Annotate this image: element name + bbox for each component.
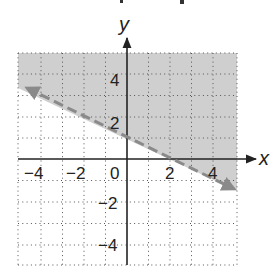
x-tick-label: 0 [110, 164, 119, 183]
x-tick-label: 2 [165, 164, 174, 183]
x-axis-label: x [258, 147, 270, 169]
y-axis-label: y [117, 13, 130, 35]
x-tick-label: −2 [66, 164, 85, 183]
x-tick-label: −4 [24, 164, 43, 183]
y-tick-label: 4 [110, 71, 119, 90]
y-tick-label: −2 [98, 194, 117, 213]
coordinate-plane: y x −4 −2 0 2 4 4 2 −2 −4 [0, 0, 279, 277]
y-tick-label: 2 [110, 114, 119, 133]
y-tick-label: −4 [98, 236, 117, 255]
cropped-text-fragment [120, 0, 184, 4]
x-tick-label: 4 [208, 164, 217, 183]
